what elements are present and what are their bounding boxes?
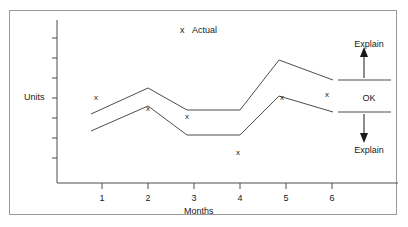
zone-label-upper-explain: Explain [341,39,397,49]
control-chart-figure: x Actual Units Months 1 2 3 4 5 6 x x x … [0,0,408,227]
zone-label-ok: OK [341,93,397,103]
x-axis-ticks [102,183,332,189]
data-point-marker: x [185,112,189,121]
legend-label: Actual [192,25,217,35]
down-arrow-icon [360,114,368,143]
y-axis-ticks [52,38,57,158]
x-tick-label-6: 6 [329,193,334,203]
data-point-marker: x [280,93,284,102]
data-point-marker: x [146,104,150,113]
up-arrow-icon [360,47,368,78]
x-axis-label: Months [184,207,214,216]
x-tick-label-1: 1 [99,193,104,203]
x-tick-label-5: 5 [283,193,288,203]
x-tick-label-4: 4 [237,193,242,203]
lower-limit-line [91,96,333,135]
data-point-marker: x [325,90,329,99]
data-point-marker: x [94,93,98,102]
upper-limit-line [91,60,333,114]
zone-label-lower-explain: Explain [341,145,397,155]
legend-marker-icon: x [180,25,185,35]
x-tick-label-2: 2 [145,193,150,203]
x-tick-label-3: 3 [191,193,196,203]
data-point-marker: x [236,148,240,157]
y-axis-label: Units [24,93,45,102]
